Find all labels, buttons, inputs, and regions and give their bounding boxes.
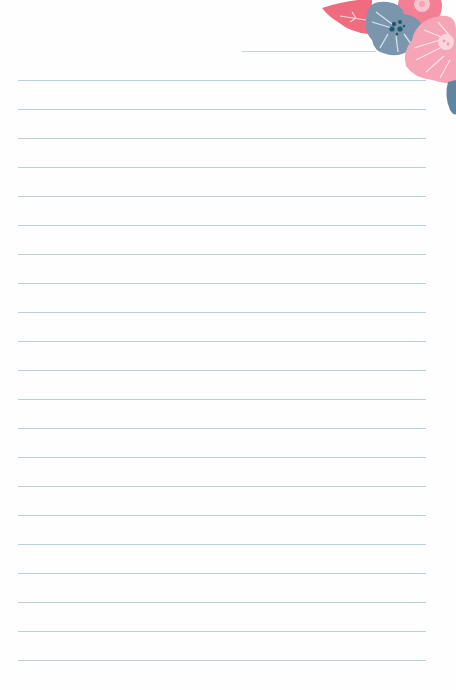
leaf-icon [322,0,372,34]
ruled-line [18,138,426,139]
floral-corner-decoration [316,0,456,120]
ruled-line [18,196,426,197]
ruled-line [18,544,426,545]
ruled-line [18,660,426,661]
ruled-line [18,341,426,342]
ruled-line [18,312,426,313]
ruled-line [18,602,426,603]
ruled-line [18,167,426,168]
lined-paper [0,0,456,690]
ruled-line [18,515,426,516]
ruled-line [18,631,426,632]
ruled-line [18,370,426,371]
ruled-line [18,486,426,487]
blue-petal-icon [446,80,456,115]
ruled-line [18,399,426,400]
ruled-line [18,573,426,574]
ruled-line [18,428,426,429]
ruled-line [18,254,426,255]
ruled-line [18,225,426,226]
ruled-line [18,283,426,284]
ruled-line [18,457,426,458]
